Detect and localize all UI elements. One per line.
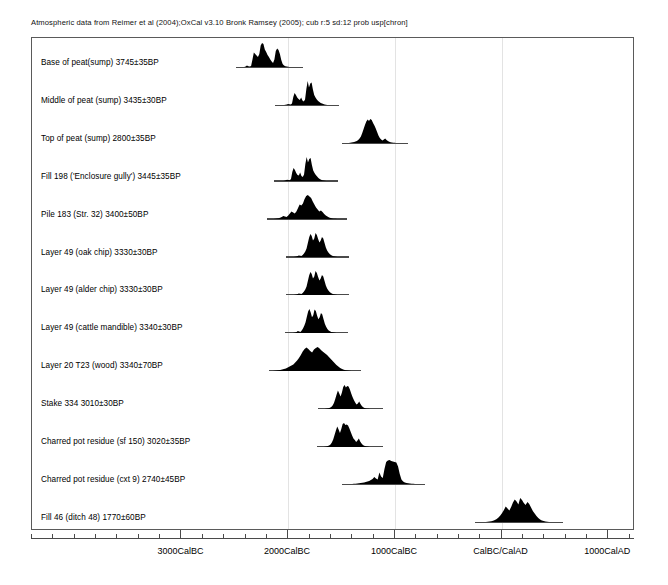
- sample-label: Layer 49 (alder chip) 3330±30BP: [41, 285, 163, 294]
- axis-tick-minor: [74, 534, 75, 539]
- sample-label: Layer 49 (oak chip) 3330±30BP: [41, 248, 158, 257]
- distribution-curve: [286, 233, 349, 257]
- distribution-row: Base of peat(sump) 3745±35BP: [32, 38, 633, 76]
- axis-tick-minor: [223, 534, 224, 539]
- x-axis: 3000CalBC2000CalBC1000CalBCCalBC/CalAD10…: [31, 530, 634, 585]
- probability-distribution: [475, 493, 564, 523]
- distribution-row: Layer 49 (oak chip) 3330±30BP: [32, 228, 633, 266]
- axis-tick-label: 1000CalAD: [584, 546, 630, 556]
- axis-tick-major: [607, 530, 608, 539]
- axis-tick-minor: [138, 534, 139, 539]
- distribution-row: Layer 49 (alder chip) 3330±30BP: [32, 266, 633, 304]
- oxcal-calibration-figure: Atmospheric data from Reimer et al (2004…: [0, 0, 668, 585]
- distribution-row: Layer 20 T23 (wood) 3340±70BP: [32, 341, 633, 379]
- axis-tick-minor: [522, 534, 523, 539]
- probability-distribution: [236, 38, 303, 68]
- distribution-row: Charred pot residue (sf 150) 3020±35BP: [32, 417, 633, 455]
- axis-tick-minor: [245, 534, 246, 539]
- sample-label: Middle of peat (sump) 3435±30BP: [41, 96, 167, 105]
- sample-label: Charred pot residue (cxt 9) 2740±45BP: [41, 475, 185, 484]
- sample-label: Charred pot residue (sf 150) 3020±35BP: [41, 437, 190, 446]
- distribution-curve: [286, 271, 349, 295]
- distribution-curve: [269, 347, 361, 371]
- sample-label: Layer 20 T23 (wood) 3340±70BP: [41, 361, 163, 370]
- probability-distribution: [342, 455, 425, 485]
- distribution-curve: [275, 81, 339, 105]
- probability-distribution: [285, 303, 348, 333]
- axis-tick-minor: [330, 534, 331, 539]
- distribution-row: Top of peat (sump) 2800±35BP: [32, 114, 633, 152]
- axis-tick-minor: [415, 534, 416, 539]
- distribution-row: Stake 334 3010±30BP: [32, 379, 633, 417]
- distribution-curve: [236, 43, 303, 67]
- distribution-row: Charred pot residue (cxt 9) 2740±45BP: [32, 455, 633, 493]
- distribution-row: Pile 183 (Str. 32) 3400±50BP: [32, 190, 633, 228]
- probability-distribution: [286, 228, 349, 258]
- probability-distribution: [342, 114, 408, 144]
- sample-label: Fill 198 ('Enclosure gully') 3445±35BP: [41, 172, 181, 181]
- sample-label: Fill 46 (ditch 48) 1770±60BP: [41, 513, 146, 522]
- axis-tick-minor: [266, 534, 267, 539]
- axis-tick-minor: [565, 534, 566, 539]
- sample-label: Pile 183 (Str. 32) 3400±50BP: [41, 210, 148, 219]
- sample-label: Stake 334 3010±30BP: [41, 399, 124, 408]
- axis-tick-major: [394, 530, 395, 539]
- distribution-curve: [342, 119, 408, 143]
- probability-distribution: [274, 152, 338, 182]
- axis-tick-minor: [116, 534, 117, 539]
- axis-tick-minor: [586, 534, 587, 539]
- distribution-curve: [267, 195, 347, 219]
- axis-tick-label: CalBC/CalAD: [473, 546, 528, 556]
- axis-tick-minor: [309, 534, 310, 539]
- sample-label: Base of peat(sump) 3745±35BP: [41, 58, 159, 67]
- axis-tick-label: 2000CalBC: [264, 546, 310, 556]
- distribution-row: Fill 198 ('Enclosure gully') 3445±35BP: [32, 152, 633, 190]
- axis-tick-minor: [458, 534, 459, 539]
- distribution-curve: [318, 385, 383, 409]
- sample-label: Layer 49 (cattle mandible) 3340±30BP: [41, 323, 182, 332]
- axis-tick-minor: [479, 534, 480, 539]
- distribution-curve: [342, 460, 425, 484]
- sample-label: Top of peat (sump) 2800±35BP: [41, 134, 156, 143]
- distribution-curve: [475, 498, 564, 522]
- distribution-row: Layer 49 (cattle mandible) 3340±30BP: [32, 303, 633, 341]
- axis-tick-minor: [159, 534, 160, 539]
- axis-tick-minor: [52, 534, 53, 539]
- distribution-curve: [285, 309, 348, 333]
- axis-tick-minor: [31, 534, 32, 539]
- axis-tick-minor: [543, 534, 544, 539]
- probability-distribution: [286, 265, 349, 295]
- distribution-row: Middle of peat (sump) 3435±30BP: [32, 76, 633, 114]
- probability-distribution: [267, 190, 347, 220]
- axis-tick-minor: [629, 534, 630, 539]
- probability-distribution: [275, 76, 339, 106]
- axis-tick-major: [501, 530, 502, 539]
- probability-distribution: [318, 379, 383, 409]
- axis-tick-minor: [95, 534, 96, 539]
- axis-tick-minor: [351, 534, 352, 539]
- axis-tick-minor: [437, 534, 438, 539]
- probability-distribution: [269, 341, 361, 371]
- distribution-curve: [317, 423, 383, 447]
- distribution-curve: [274, 157, 338, 181]
- axis-tick-minor: [373, 534, 374, 539]
- axis-tick-major: [287, 530, 288, 539]
- distribution-row: Fill 46 (ditch 48) 1770±60BP: [32, 493, 633, 531]
- plot-area: Base of peat(sump) 3745±35BPMiddle of pe…: [31, 37, 634, 530]
- axis-tick-major: [180, 530, 181, 539]
- probability-distribution: [317, 417, 383, 447]
- axis-tick-label: 1000CalBC: [371, 546, 417, 556]
- axis-tick-minor: [202, 534, 203, 539]
- axis-tick-label: 3000CalBC: [157, 546, 203, 556]
- figure-caption: Atmospheric data from Reimer et al (2004…: [31, 18, 408, 28]
